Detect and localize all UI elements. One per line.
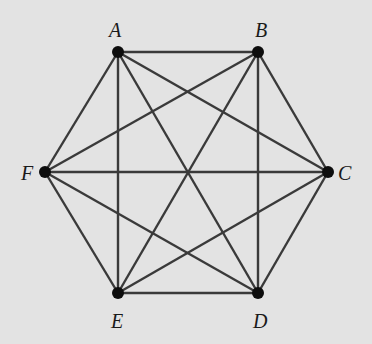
node-label-d: D [253, 311, 267, 331]
node-label-e: E [111, 311, 123, 331]
edge-b-c [258, 52, 328, 172]
node-label-b: B [255, 20, 267, 40]
node-b [252, 46, 264, 58]
edge-a-f [45, 52, 118, 172]
node-label-a: A [109, 20, 121, 40]
graph-canvas [0, 0, 372, 344]
node-e [112, 287, 124, 299]
edge-c-d [258, 172, 328, 293]
node-f [39, 166, 51, 178]
graph-diagram: A B C D E F [0, 0, 372, 344]
edges [45, 52, 328, 293]
node-a [112, 46, 124, 58]
node-c [322, 166, 334, 178]
node-d [252, 287, 264, 299]
node-label-f: F [21, 163, 33, 183]
node-label-c: C [338, 163, 351, 183]
edge-e-f [45, 172, 118, 293]
